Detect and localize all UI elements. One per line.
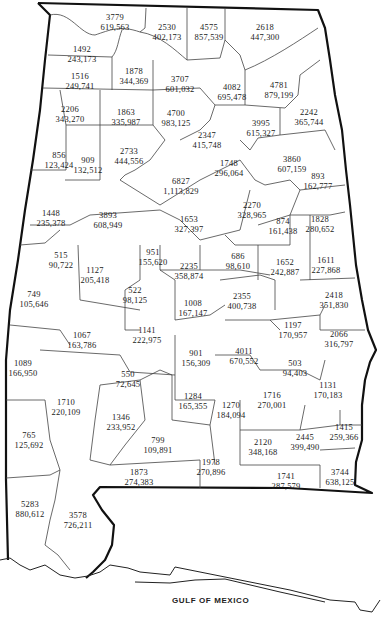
county-top-value: 1415 xyxy=(335,422,353,432)
county-top-value: 1748 xyxy=(220,158,238,168)
county-bottom-value: 155,620 xyxy=(138,257,167,267)
county-bottom-value: 983,125 xyxy=(161,118,190,128)
county-bottom-value: 358,874 xyxy=(174,271,204,281)
county-top-value: 4781 xyxy=(270,80,288,90)
county-top-value: 3860 xyxy=(283,154,301,164)
county-top-value: 1127 xyxy=(86,265,104,275)
county-top-value: 799 xyxy=(151,435,164,445)
county-bottom-value: 880,612 xyxy=(15,509,44,519)
county-top-value: 2270 xyxy=(243,200,261,210)
county-top-value: 1611 xyxy=(317,255,335,265)
county-bottom-value: 220,109 xyxy=(51,407,80,417)
county-bottom-value: 348,168 xyxy=(248,447,277,457)
county-bottom-value: 607,159 xyxy=(277,164,306,174)
county-top-value: 1516 xyxy=(71,71,89,81)
county-bottom-value: 161,438 xyxy=(268,226,297,236)
county-top-value: 2242 xyxy=(300,107,318,117)
county-bottom-value: 879,199 xyxy=(264,90,293,100)
county-bottom-value: 156,309 xyxy=(181,358,210,368)
county-bottom-value: 205,418 xyxy=(80,275,109,285)
county-bottom-value: 601,032 xyxy=(165,84,194,94)
county-top-value: 2066 xyxy=(330,329,348,339)
county-bottom-value: 343,270 xyxy=(55,114,84,124)
county-bottom-value: 170,183 xyxy=(313,390,342,400)
county-bottom-value: 94,403 xyxy=(283,368,308,378)
county-bottom-value: 444,556 xyxy=(114,156,143,166)
county-bottom-value: 447,300 xyxy=(250,32,279,42)
county-bottom-value: 259,366 xyxy=(329,432,358,442)
county-top-value: 3578 xyxy=(69,510,87,520)
county-bottom-value: 163,786 xyxy=(67,340,96,350)
county-bottom-value: 274,383 xyxy=(124,477,153,487)
county-bottom-value: 98,125 xyxy=(123,295,148,305)
county-top-value: 1141 xyxy=(138,325,156,335)
county-bottom-value: 365,744 xyxy=(294,117,324,127)
county-bottom-value: 165,355 xyxy=(178,401,207,411)
county-bottom-value: 105,646 xyxy=(19,299,48,309)
county-top-value: 1270 xyxy=(222,400,240,410)
county-top-value: 1978 xyxy=(202,457,220,467)
county-bottom-value: 98,610 xyxy=(226,261,251,271)
alabama-county-map: 3779619,5632530402,1734575857,5392618447… xyxy=(0,0,388,627)
county-bottom-value: 328,965 xyxy=(237,210,266,220)
county-bottom-value: 415,748 xyxy=(192,140,221,150)
county-top-value: 686 xyxy=(231,251,244,261)
county-top-value: 4082 xyxy=(223,82,241,92)
county-bottom-value: 857,539 xyxy=(194,32,223,42)
county-top-value: 3893 xyxy=(99,210,117,220)
county-bottom-value: 287,579 xyxy=(271,481,300,491)
county-bottom-value: 296,064 xyxy=(214,168,244,178)
county-bottom-value: 235,378 xyxy=(36,218,65,228)
county-bottom-value: 399,490 xyxy=(290,442,319,452)
county-top-value: 1067 xyxy=(73,330,91,340)
county-bottom-value: 280,652 xyxy=(305,224,334,234)
county-top-value: 2355 xyxy=(233,291,251,301)
county-top-value: 1448 xyxy=(42,208,60,218)
gulf-of-mexico-label: GULF OF MEXICO xyxy=(172,596,249,605)
county-top-value: 1197 xyxy=(284,320,302,330)
county-top-value: 522 xyxy=(128,285,141,295)
county-top-value: 1089 xyxy=(14,358,32,368)
county-top-value: 874 xyxy=(276,216,290,226)
county-top-value: 2206 xyxy=(61,104,79,114)
county-top-value: 4700 xyxy=(167,108,185,118)
county-top-value: 515 xyxy=(54,250,67,260)
county-top-value: 1828 xyxy=(311,214,329,224)
county-bottom-value: 270,001 xyxy=(257,400,286,410)
county-bottom-value: 227,868 xyxy=(311,265,340,275)
county-bottom-value: 90,722 xyxy=(49,260,74,270)
county-bottom-value: 270,896 xyxy=(196,467,225,477)
county-top-value: 1878 xyxy=(125,66,143,76)
county-bottom-value: 1,113,829 xyxy=(163,186,199,196)
county-top-value: 1284 xyxy=(184,391,202,401)
county-bottom-value: 243,173 xyxy=(67,54,96,64)
county-top-value: 1873 xyxy=(130,467,148,477)
county-top-value: 856 xyxy=(52,150,65,160)
county-top-value: 2120 xyxy=(254,437,272,447)
county-bottom-value: 402,173 xyxy=(152,32,181,42)
county-top-value: 1652 xyxy=(276,257,294,267)
county-bottom-value: 615,327 xyxy=(246,128,275,138)
county-bottom-value: 400,738 xyxy=(227,301,256,311)
county-top-value: 2445 xyxy=(296,432,314,442)
county-bottom-value: 167,147 xyxy=(178,308,207,318)
county-top-value: 2530 xyxy=(158,22,176,32)
county-top-value: 2235 xyxy=(180,261,198,271)
county-bottom-value: 72,645 xyxy=(116,379,141,389)
county-bottom-value: 695,478 xyxy=(217,92,246,102)
county-bottom-value: 638,125 xyxy=(325,477,354,487)
county-top-value: 1863 xyxy=(117,107,135,117)
county-bottom-value: 351,830 xyxy=(319,300,348,310)
county-top-value: 6827 xyxy=(172,176,190,186)
county-bottom-value: 316,797 xyxy=(324,339,353,349)
county-top-value: 749 xyxy=(27,289,40,299)
county-top-value: 2733 xyxy=(120,146,138,156)
county-bottom-value: 335,987 xyxy=(111,117,140,127)
county-top-value: 765 xyxy=(22,430,35,440)
county-top-value: 4575 xyxy=(200,22,218,32)
county-top-value: 893 xyxy=(311,171,324,181)
county-top-value: 1653 xyxy=(180,214,198,224)
county-bottom-value: 109,891 xyxy=(143,445,172,455)
county-top-value: 3995 xyxy=(252,118,270,128)
county-bottom-value: 327,397 xyxy=(174,224,203,234)
